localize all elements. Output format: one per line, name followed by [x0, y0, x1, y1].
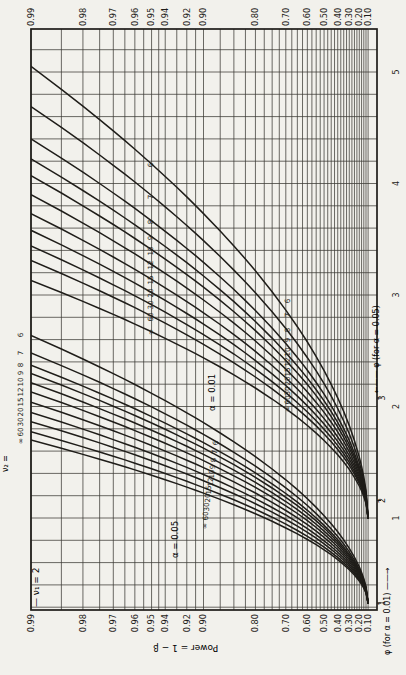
alpha-0.01-nu2-label-20: 20 [283, 376, 292, 386]
power-tick-top-0.50: 0.50 [319, 8, 329, 26]
alpha-0.05-nu2-label-7: 7 [16, 351, 25, 356]
alpha-005-family-label: α = 0.05 [170, 521, 180, 558]
power-tick-top-0.92: 0.92 [182, 8, 192, 26]
alpha-0.05-nu2-label-9: 9 [16, 370, 25, 375]
alpha-0.01-nu2-label-10: 10 [146, 246, 155, 256]
power-tick-top-0.97: 0.97 [108, 8, 118, 26]
alpha-0.01-nu2-label-10: 10 [283, 347, 292, 357]
power-tick-bottom-0.30: 0.30 [344, 614, 354, 632]
alpha-0.05-nu2-label-60: 60 [201, 511, 210, 521]
power-chart-page: 6789101215203060∞6789101215203060∞678910… [0, 0, 406, 675]
phi-005-tick-3: 3 [378, 395, 387, 400]
alpha-0.05-nu2-label-10: 10 [16, 377, 25, 387]
alpha-0.01-nu2-label-9: 9 [283, 337, 292, 342]
power-tick-top-0.94: 0.94 [160, 8, 170, 26]
power-tick-bottom-0.60: 0.60 [302, 614, 312, 632]
power-tick-bottom-0.80: 0.80 [250, 614, 260, 632]
alpha-0.05-nu2-label-8: 8 [209, 457, 218, 462]
alpha-0.01-nu2-label-∞: ∞ [283, 406, 292, 412]
alpha-0.05-nu2-label-12: 12 [16, 387, 25, 396]
nu1-label: — ν₁ = 2 [31, 568, 41, 608]
alpha-0.05-nu2-label-60: 60 [16, 427, 25, 437]
power-tick-top-0.40: 0.40 [333, 8, 343, 26]
alpha-0.01-nu2-label-8: 8 [146, 219, 155, 224]
alpha-0.01-nu2-label-7: 7 [146, 195, 155, 200]
power-tick-top-0.30: 0.30 [344, 8, 354, 26]
power-tick-bottom-0.97: 0.97 [108, 614, 118, 632]
alpha-0.01-nu2-label-9: 9 [146, 235, 155, 240]
alpha-001-family-label: α = 0.01 [207, 374, 217, 411]
power-tick-bottom-0.98: 0.98 [78, 614, 88, 632]
alpha-0.01-nu2-label-8: 8 [283, 327, 292, 332]
power-tick-bottom-0.70: 0.70 [281, 614, 291, 632]
phi-axis-001-label: φ (for α = 0.01) ——→ [383, 567, 393, 655]
alpha-0.05-nu2-label-15: 15 [204, 485, 213, 494]
power-tick-top-0.95: 0.95 [146, 8, 156, 26]
alpha-0.01-nu2-label-20: 20 [146, 288, 155, 298]
power-tick-bottom-0.90: 0.90 [198, 614, 208, 632]
alpha-0.01-nu2-label-15: 15 [283, 367, 292, 376]
paper-background [0, 0, 406, 675]
phi-005-tick-2: 2 [378, 498, 387, 503]
phi-001-tick-4: 4 [392, 181, 401, 186]
phi-001-tick-2: 2 [392, 404, 401, 409]
phi-001-tick-3: 3 [392, 292, 401, 297]
alpha-0.05-nu2-label-30: 30 [16, 417, 25, 427]
power-tick-bottom-0.95: 0.95 [146, 614, 156, 632]
power-tick-top-0.80: 0.80 [250, 8, 260, 26]
power-tick-bottom-0.40: 0.40 [333, 614, 343, 632]
alpha-0.05-nu2-label-15: 15 [16, 397, 25, 406]
alpha-0.05-nu2-label-∞: ∞ [16, 438, 25, 444]
alpha-0.05-nu2-label-6: 6 [211, 440, 220, 445]
power-axis-label: Power = 1 − β [153, 643, 218, 653]
power-tick-bottom-0.50: 0.50 [319, 614, 329, 632]
power-tick-top-0.98: 0.98 [78, 8, 88, 26]
phi-001-tick-1: 1 [392, 515, 401, 520]
alpha-0.05-nu2-label-10: 10 [207, 469, 216, 479]
alpha-0.01-nu2-label-6: 6 [283, 298, 292, 303]
alpha-0.05-nu2-label-12: 12 [206, 477, 215, 486]
alpha-0.01-nu2-label-12: 12 [283, 357, 292, 366]
power-tick-top-0.10: 0.10 [363, 8, 373, 26]
alpha-0.05-nu2-label-20: 20 [16, 407, 25, 417]
power-tick-top-0.70: 0.70 [281, 8, 291, 26]
alpha-0.05-nu2-label-8: 8 [16, 362, 25, 367]
power-tick-bottom-0.96: 0.96 [130, 614, 140, 632]
alpha-0.01-nu2-label-6: 6 [146, 162, 155, 167]
power-chart-svg: 6789101215203060∞6789101215203060∞678910… [0, 0, 406, 675]
power-tick-top-0.96: 0.96 [130, 8, 140, 26]
alpha-0.05-nu2-label-9: 9 [208, 464, 217, 469]
phi-axis-005-label: ←—— φ (for α = 0.05) [372, 305, 382, 393]
power-tick-top-0.60: 0.60 [302, 8, 312, 26]
alpha-0.05-nu2-label-∞: ∞ [200, 523, 209, 529]
alpha-0.01-nu2-label-7: 7 [283, 313, 292, 318]
alpha-0.05-nu2-label-30: 30 [202, 502, 211, 512]
phi-001-tick-5: 5 [392, 69, 401, 74]
power-tick-bottom-0.94: 0.94 [160, 614, 170, 632]
alpha-0.01-nu2-label-60: 60 [146, 312, 155, 322]
alpha-0.01-nu2-label-15: 15 [146, 275, 155, 284]
power-tick-top-0.99: 0.99 [26, 8, 36, 26]
alpha-0.01-nu2-label-12: 12 [146, 260, 155, 269]
alpha-0.05-nu2-label-7: 7 [210, 450, 219, 455]
power-tick-bottom-0.10: 0.10 [363, 614, 373, 632]
power-tick-bottom-0.99: 0.99 [26, 614, 36, 632]
power-tick-bottom-0.92: 0.92 [182, 614, 192, 632]
alpha-0.05-nu2-label-6: 6 [16, 332, 25, 337]
alpha-0.01-nu2-label-60: 60 [283, 395, 292, 405]
alpha-0.01-nu2-label-30: 30 [283, 386, 292, 396]
power-tick-top-0.90: 0.90 [198, 8, 208, 26]
alpha-0.01-nu2-label-30: 30 [146, 300, 155, 310]
alpha-0.01-nu2-label-∞: ∞ [146, 329, 155, 335]
nu2-prefix-label: ν₂ = [1, 455, 11, 472]
alpha-0.05-nu2-label-20: 20 [203, 493, 212, 503]
